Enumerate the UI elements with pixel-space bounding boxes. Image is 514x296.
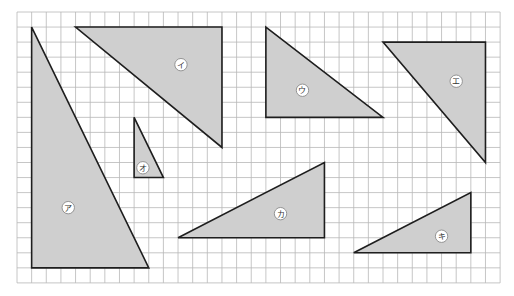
triangle-label: イ [177, 61, 185, 70]
triangle-label: ウ [298, 86, 306, 95]
grid-figure: アイウエオカキ [0, 0, 514, 296]
triangle-label: カ [277, 210, 285, 219]
triangle-label: エ [452, 77, 460, 86]
triangle-label: オ [139, 164, 147, 173]
triangle-label: キ [438, 232, 446, 241]
triangle-label: ア [64, 204, 72, 213]
